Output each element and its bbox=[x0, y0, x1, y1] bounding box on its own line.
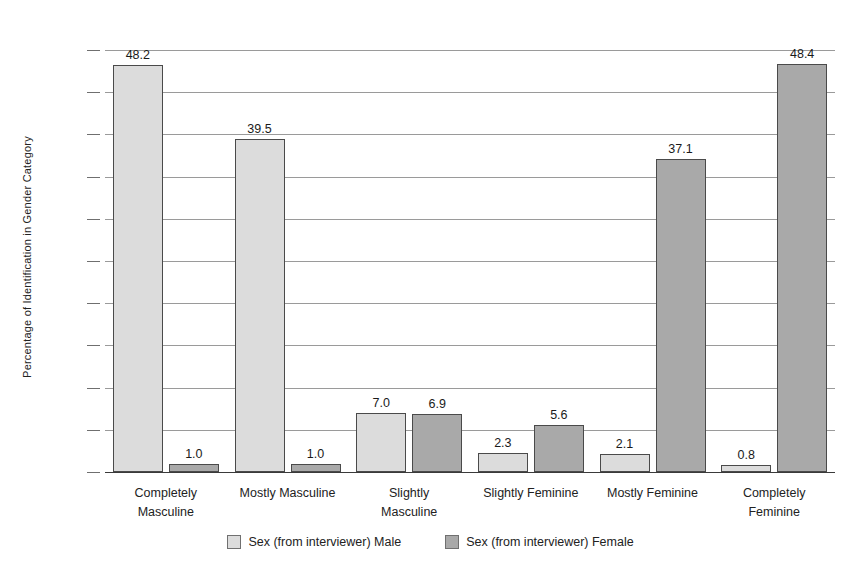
y-tick-mark bbox=[87, 261, 100, 262]
legend-label: Sex (from interviewer) Female bbox=[466, 535, 633, 549]
bar: 1.0 bbox=[169, 464, 219, 472]
bar: 48.2 bbox=[113, 65, 163, 472]
x-axis-tick-labels: CompletelyMasculineMostly MasculineSligh… bbox=[105, 484, 835, 528]
bar: 39.5 bbox=[235, 139, 285, 472]
y-tick-mark bbox=[87, 388, 100, 389]
bar-value-label: 7.0 bbox=[372, 396, 389, 410]
y-axis-title: Percentage of Identification in Gender C… bbox=[14, 22, 40, 492]
legend-swatch-icon bbox=[445, 535, 459, 549]
bar-value-label: 39.5 bbox=[247, 122, 271, 136]
y-tick-mark bbox=[87, 50, 100, 51]
x-tick-label: Slightly Feminine bbox=[470, 484, 592, 503]
y-tick-mark bbox=[87, 430, 100, 431]
gridline bbox=[105, 345, 835, 346]
bar: 2.1 bbox=[600, 454, 650, 472]
y-tick-mark bbox=[87, 472, 100, 473]
y-tick-mark bbox=[87, 134, 100, 135]
chart-legend: Sex (from interviewer) MaleSex (from int… bbox=[0, 535, 861, 549]
bar-value-label: 48.2 bbox=[126, 48, 150, 62]
gridline bbox=[105, 261, 835, 262]
x-tick-label: Mostly Masculine bbox=[227, 484, 349, 503]
plot-area: 0%5%10%15%20%25%30%35%40%45%50% 48.21.03… bbox=[105, 50, 835, 472]
y-tick-mark bbox=[87, 345, 100, 346]
bar: 6.9 bbox=[412, 414, 462, 472]
gridline bbox=[105, 430, 835, 431]
bar: 2.3 bbox=[478, 453, 528, 472]
x-tick-label-line: Slightly bbox=[348, 484, 470, 503]
bar-value-label: 2.3 bbox=[494, 436, 511, 450]
gridline bbox=[105, 388, 835, 389]
bar-value-label: 5.6 bbox=[550, 408, 567, 422]
y-tick-mark bbox=[87, 92, 100, 93]
x-tick-label-line: Feminine bbox=[713, 503, 835, 522]
gridline bbox=[105, 177, 835, 178]
bar: 0.8 bbox=[721, 465, 771, 472]
gridline bbox=[105, 92, 835, 93]
x-tick-label-line: Completely bbox=[105, 484, 227, 503]
gridlines-layer: 0%5%10%15%20%25%30%35%40%45%50% bbox=[105, 50, 835, 472]
gridline bbox=[105, 303, 835, 304]
x-tick-label-line: Mostly Masculine bbox=[227, 484, 349, 503]
gridline bbox=[105, 134, 835, 135]
bar-value-label: 0.8 bbox=[737, 448, 754, 462]
bar-value-label: 48.4 bbox=[790, 47, 814, 61]
bar: 7.0 bbox=[356, 413, 406, 472]
x-tick-label-line: Masculine bbox=[105, 503, 227, 522]
gridline bbox=[105, 50, 835, 51]
bar-value-label: 6.9 bbox=[428, 397, 445, 411]
legend-label: Sex (from interviewer) Male bbox=[248, 535, 401, 549]
x-tick-label-line: Slightly Feminine bbox=[470, 484, 592, 503]
x-tick-label-line: Masculine bbox=[348, 503, 470, 522]
y-tick-mark bbox=[87, 177, 100, 178]
y-tick-mark bbox=[87, 303, 100, 304]
bar-value-label: 1.0 bbox=[185, 447, 202, 461]
bar-value-label: 2.1 bbox=[616, 437, 633, 451]
bar: 37.1 bbox=[656, 159, 706, 472]
legend-swatch-icon bbox=[227, 535, 241, 549]
bar: 5.6 bbox=[534, 425, 584, 472]
x-tick-label: CompletelyFeminine bbox=[713, 484, 835, 522]
x-tick-label: CompletelyMasculine bbox=[105, 484, 227, 522]
bar-value-label: 1.0 bbox=[307, 447, 324, 461]
x-tick-label: Mostly Feminine bbox=[592, 484, 714, 503]
bar: 1.0 bbox=[291, 464, 341, 472]
axis-baseline bbox=[105, 472, 835, 473]
gridline bbox=[105, 219, 835, 220]
x-tick-label-line: Completely bbox=[713, 484, 835, 503]
x-tick-label-line: Mostly Feminine bbox=[592, 484, 714, 503]
y-tick-mark bbox=[87, 219, 100, 220]
bar-value-label: 37.1 bbox=[668, 142, 692, 156]
legend-item[interactable]: Sex (from interviewer) Female bbox=[445, 535, 633, 549]
x-tick-label: SlightlyMasculine bbox=[348, 484, 470, 522]
bar: 48.4 bbox=[777, 64, 827, 472]
legend-item[interactable]: Sex (from interviewer) Male bbox=[227, 535, 401, 549]
bar-chart-figure: Percentage of Identification in Gender C… bbox=[0, 0, 861, 585]
